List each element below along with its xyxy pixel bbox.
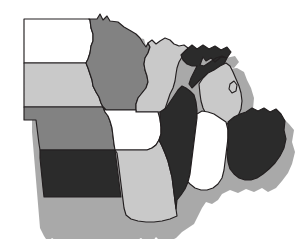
state-kansas[interactable]: Kansas xyxy=(40,150,121,197)
states-group: North Dakota South Dakota Nebraska Kansa… xyxy=(24,14,286,222)
midwest-map-svg: North Dakota South Dakota Nebraska Kansa… xyxy=(0,0,297,239)
midwest-map-figure: North Dakota South Dakota Nebraska Kansa… xyxy=(0,0,297,239)
state-north-dakota[interactable]: North Dakota xyxy=(24,19,93,63)
